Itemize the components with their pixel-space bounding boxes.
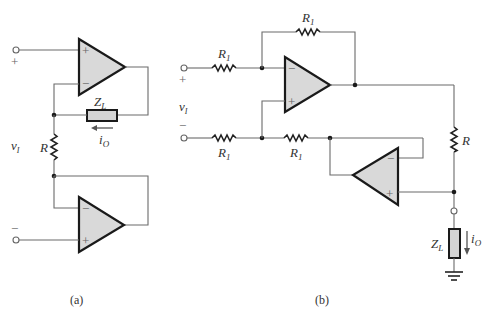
input-terminal-plus [13, 47, 19, 53]
vi-label: vI [179, 99, 188, 116]
load-impedance-zl [87, 110, 117, 121]
r1-label: R1 [217, 145, 230, 162]
io-label: iO [471, 231, 482, 248]
opamp-plus-label: + [288, 94, 295, 109]
resistor-r1-input-bottom [212, 135, 236, 141]
arrowhead-icon [464, 248, 470, 255]
resistor-r [51, 134, 57, 160]
circuit-diagram: + + − ZL iO R vI − + − (a) [0, 0, 489, 320]
input-terminal-plus [181, 65, 187, 71]
resistor-r-sense [451, 127, 457, 152]
r1-label: R1 [289, 145, 302, 162]
io-label: iO [99, 132, 110, 149]
r1-label: R1 [301, 10, 314, 27]
junction-node [452, 190, 457, 195]
minus-sign: − [179, 118, 186, 133]
caption-a: (a) [70, 293, 83, 307]
resistor-r1-feedback [296, 29, 320, 35]
vi-label: vI [11, 138, 20, 155]
r-label: R [461, 133, 470, 148]
r1-label: R1 [217, 46, 230, 63]
opamp-plus-label: + [82, 233, 89, 248]
minus-sign: − [11, 221, 18, 236]
resistor-r1-series [284, 135, 308, 141]
opamp-plus-label: + [386, 186, 393, 201]
input-terminal-minus [181, 135, 187, 141]
output-terminal [451, 208, 457, 214]
panel-a: + + − ZL iO R vI − + − (a) [11, 39, 148, 307]
plus-sign: + [179, 72, 186, 87]
arrowhead-icon [91, 125, 97, 131]
panel-b: + R1 R1 − + vI − R1 R1 [179, 10, 482, 307]
opamp-minus-label: − [288, 61, 295, 76]
load-impedance-zl [449, 229, 460, 258]
zl-label: ZL [94, 94, 106, 111]
zl-label: ZL [431, 236, 443, 253]
caption-b: (b) [315, 293, 329, 307]
r-label: R [39, 140, 48, 155]
opamp-plus-label: + [82, 43, 89, 58]
opamp-minus-label: − [82, 76, 89, 91]
ground-icon [445, 272, 463, 280]
junction-node [353, 83, 358, 88]
input-terminal-minus [13, 237, 19, 243]
resistor-r1-input-top [212, 65, 236, 71]
opamp-minus-label: − [82, 201, 89, 216]
opamp-minus-label: − [387, 151, 394, 166]
plus-sign: + [11, 54, 18, 69]
